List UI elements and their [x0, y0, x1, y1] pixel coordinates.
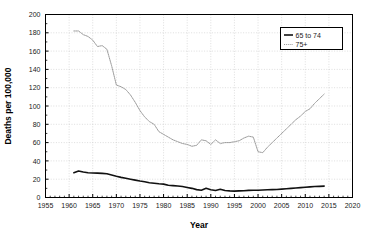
y-tick-label: 160: [29, 48, 41, 55]
x-tick-label: 1975: [132, 202, 148, 209]
y-tick-label: 100: [29, 103, 41, 110]
x-tick-label: 2000: [250, 202, 266, 209]
legend-label-2: 75+: [296, 41, 308, 48]
x-tick-label: 2020: [345, 202, 361, 209]
y-axis-title: Deaths per 100,000: [3, 67, 13, 144]
chart-container: 1955196019651970197519801985199019952000…: [0, 0, 368, 242]
x-tick-label: 2005: [274, 202, 290, 209]
x-tick-label: 1995: [227, 202, 243, 209]
x-tick-label: 1980: [156, 202, 172, 209]
y-tick-label: 60: [33, 139, 41, 146]
x-tick-label: 1955: [38, 202, 54, 209]
y-tick-label: 80: [33, 121, 41, 128]
chart-legend[interactable]: 65 to 7475+: [281, 28, 343, 50]
y-tick-label: 40: [33, 158, 41, 165]
x-tick-label: 1970: [109, 202, 125, 209]
y-tick-label: 0: [37, 194, 41, 201]
x-tick-label: 1985: [179, 202, 195, 209]
x-tick-label: 1965: [85, 202, 101, 209]
line-chart: 1955196019651970197519801985199019952000…: [0, 0, 368, 242]
x-tick-label: 1960: [61, 202, 77, 209]
x-tick-label: 2010: [297, 202, 313, 209]
y-tick-label: 120: [29, 84, 41, 91]
legend-label-1: 65 to 74: [296, 32, 321, 39]
x-tick-label: 1990: [203, 202, 219, 209]
x-tick-label: 2015: [321, 202, 337, 209]
y-tick-label: 180: [29, 29, 41, 36]
y-tick-label: 200: [29, 11, 41, 18]
y-tick-label: 20: [33, 176, 41, 183]
y-tick-label: 140: [29, 66, 41, 73]
x-axis-title: Year: [190, 220, 209, 230]
